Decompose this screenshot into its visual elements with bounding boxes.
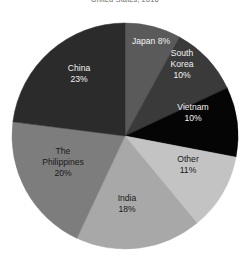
pie-label-china: China23% <box>68 63 91 84</box>
pie-label-other: Other11% <box>177 154 199 175</box>
pie-label-india: India18% <box>118 193 137 214</box>
pie-chart-svg: Japan 8%SouthKorea10%Vietnam10%Other11%I… <box>0 0 250 266</box>
pie-slice-china[interactable] <box>13 23 125 136</box>
pie-slice-group <box>12 23 238 249</box>
pie-label-south-korea: SouthKorea10% <box>171 48 194 80</box>
pie-chart-figure: United States, 2016 Japan 8%SouthKorea10… <box>0 0 250 266</box>
pie-label-japan: Japan 8% <box>132 36 171 46</box>
